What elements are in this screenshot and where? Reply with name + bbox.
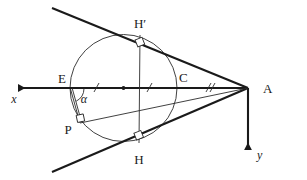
label-point-h-prime: H′ <box>134 16 146 31</box>
label-point-h: H <box>134 152 143 167</box>
circle-center-dot <box>122 86 126 90</box>
label-point-c: C <box>179 70 188 85</box>
segment-p-to-a <box>80 88 248 123</box>
label-point-a: A <box>263 81 273 96</box>
label-point-p: P <box>64 122 71 137</box>
upper-tangent-line <box>52 8 248 88</box>
label-axis-y: y <box>256 148 263 162</box>
label-angle-alpha: α <box>81 92 88 106</box>
right-angle-marker-h <box>134 130 144 140</box>
diagram-root: H′ H E C A P α x y <box>0 0 307 180</box>
geometry-figure: H′ H E C A P α x y <box>0 0 307 180</box>
chord-h-hprime <box>139 35 140 143</box>
right-angle-marker-p <box>76 114 85 123</box>
label-axis-x: x <box>10 92 17 106</box>
label-point-e: E <box>58 71 66 86</box>
